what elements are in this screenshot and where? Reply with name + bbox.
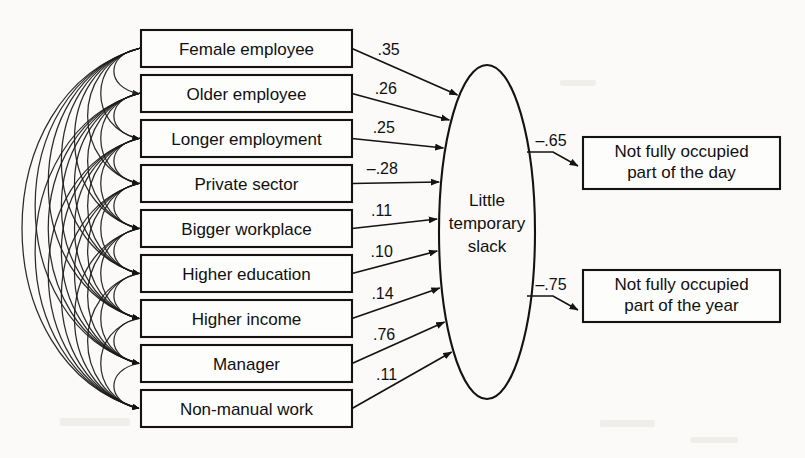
correlation-arcs-group <box>22 49 139 409</box>
coefficient-outcome-day: –.65 <box>535 132 566 149</box>
coefficient-manager: .76 <box>373 326 395 343</box>
outcome-box-day: Not fully occupied part of the day <box>583 137 780 189</box>
correlation-arc-private-sector-higher-education <box>101 184 139 274</box>
loading-path-older-employee <box>352 94 449 121</box>
path-diagram-figure: Female employeeOlder employeeLonger empl… <box>0 0 805 458</box>
indicator-boxes-group: Female employeeOlder employeeLonger empl… <box>141 30 352 427</box>
correlation-arc-higher-education-higher-income <box>114 274 139 319</box>
correlation-arc-female-employee-older-employee <box>114 49 139 94</box>
loading-coefficients-group: .35.26.25–.28.11.10.14.76.11 <box>367 41 400 383</box>
correlation-arc-longer-employment-bigger-workplace <box>101 139 139 229</box>
indicator-label-higher-income: Higher income <box>192 310 302 329</box>
outcome-day-line-1: Not fully occupied <box>614 142 748 161</box>
coefficient-private-sector: –.28 <box>367 160 398 177</box>
loading-path-non-manual-work <box>352 352 452 409</box>
indicator-box-female-employee: Female employee <box>141 30 352 67</box>
indicator-label-female-employee: Female employee <box>179 40 314 59</box>
loading-path-manager <box>352 322 445 364</box>
diagram-canvas: Female employeeOlder employeeLonger empl… <box>0 0 805 458</box>
indicator-box-private-sector: Private sector <box>141 165 352 202</box>
latent-label-line-1: Little <box>469 191 505 210</box>
correlation-arc-bigger-workplace-higher-education <box>114 229 139 274</box>
indicator-box-non-manual-work: Non-manual work <box>141 390 352 427</box>
coefficient-non-manual-work: .11 <box>376 366 397 383</box>
coefficient-higher-income: .14 <box>371 285 393 302</box>
outcome-year-line-1: Not fully occupied <box>614 275 748 294</box>
correlation-arc-manager-non-manual-work <box>114 364 139 409</box>
indicator-label-bigger-workplace: Bigger workplace <box>181 220 311 239</box>
outcome-year-line-2: part of the year <box>624 296 739 315</box>
loading-path-bigger-workplace <box>352 219 437 229</box>
loading-path-higher-income <box>352 288 440 319</box>
indicator-box-bigger-workplace: Bigger workplace <box>141 210 352 247</box>
coefficient-longer-employment: .25 <box>373 119 395 136</box>
outcome-box-year: Not fully occupied part of the year <box>583 270 780 322</box>
latent-variable-ellipse: Little temporary slack <box>439 65 535 399</box>
correlation-arc-older-employee-longer-employment <box>114 94 139 139</box>
indicator-box-higher-income: Higher income <box>141 300 352 337</box>
coefficient-outcome-year: –.75 <box>535 276 566 293</box>
correlation-arc-private-sector-bigger-workplace <box>114 184 139 229</box>
coefficient-older-employee: .26 <box>375 80 397 97</box>
loading-path-female-employee <box>352 49 458 96</box>
indicator-label-manager: Manager <box>213 355 280 374</box>
loading-path-longer-employment <box>352 139 444 149</box>
coefficient-bigger-workplace: .11 <box>371 202 392 219</box>
loading-path-private-sector <box>352 182 439 184</box>
indicator-label-older-employee: Older employee <box>186 85 306 104</box>
correlation-arc-higher-income-manager <box>114 319 139 364</box>
latent-label-line-2: temporary <box>449 214 526 233</box>
indicator-box-manager: Manager <box>141 345 352 382</box>
indicator-label-private-sector: Private sector <box>195 175 299 194</box>
loading-paths-group <box>352 49 458 409</box>
indicator-label-longer-employment: Longer employment <box>171 130 322 149</box>
coefficient-female-employee: .35 <box>377 41 399 58</box>
latent-label-line-3: slack <box>468 237 507 256</box>
correlation-arc-longer-employment-private-sector <box>114 139 139 184</box>
indicator-box-older-employee: Older employee <box>141 75 352 112</box>
indicator-box-higher-education: Higher education <box>141 255 352 292</box>
indicator-label-higher-education: Higher education <box>182 265 311 284</box>
outcome-day-line-2: part of the day <box>627 163 736 182</box>
indicator-box-longer-employment: Longer employment <box>141 120 352 157</box>
coefficient-higher-education: .10 <box>371 243 393 260</box>
correlation-arc-bigger-workplace-higher-income <box>101 229 139 319</box>
indicator-label-non-manual-work: Non-manual work <box>180 400 314 419</box>
loading-path-higher-education <box>352 251 437 274</box>
